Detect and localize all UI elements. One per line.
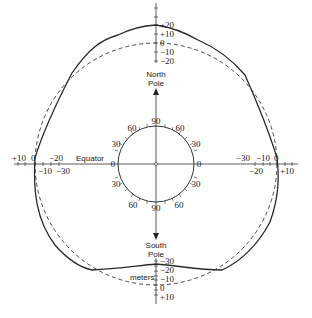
lat-0-east: 0	[197, 159, 202, 169]
lat-60-sw: 60	[129, 200, 139, 210]
north-pole-label: Pole	[148, 79, 165, 88]
north-label: North	[146, 70, 166, 79]
lat-30-ne: 30	[192, 139, 202, 149]
left-scale-minus10: −10	[38, 166, 53, 176]
left-scale-plus10: +10	[12, 153, 27, 163]
equator-label: Equator	[76, 154, 104, 163]
lat-60-se: 60	[175, 200, 185, 210]
lat-90-north: 90	[152, 116, 162, 126]
south-scale-plus10: +10	[160, 292, 175, 302]
right-scale-minus30: −30	[236, 153, 251, 163]
right-scale-plus10: +10	[280, 166, 295, 176]
north-scale-minus20: −20	[160, 56, 175, 66]
lat-90-south: 90	[152, 203, 162, 213]
south-label: South	[146, 241, 167, 250]
right-scale-minus20: −20	[249, 166, 264, 176]
left-scale-minus20: −20	[49, 153, 64, 163]
lat-30-nw: 30	[112, 139, 122, 149]
south-arrow-icon	[153, 233, 159, 240]
lat-60-ne: 60	[176, 123, 186, 133]
lat-0-west: 0	[111, 159, 116, 169]
right-scale-minus10: −10	[256, 153, 271, 163]
lat-60-nw: 60	[128, 123, 138, 133]
north-arrow-icon	[153, 88, 159, 95]
center-point	[155, 163, 158, 166]
right-scale-zero: 0	[274, 153, 279, 163]
lat-30-sw: 30	[112, 179, 122, 189]
geoid-diagram: +10 0 −20 −10 −30 Equator −30 −10 0 −20 …	[0, 0, 312, 318]
units-label: meters	[130, 273, 154, 282]
left-scale-zero: 0	[31, 153, 36, 163]
left-scale-minus30: −30	[56, 166, 71, 176]
lat-30-se: 30	[192, 179, 202, 189]
